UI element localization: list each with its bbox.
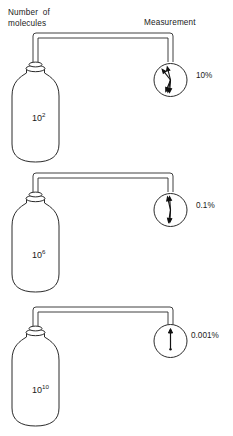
row-3-tube — [33, 307, 173, 326]
row-2-group — [12, 173, 187, 292]
molecule-count-exponent: 6 — [42, 248, 45, 255]
measurement-value-row-3: 0.001% — [191, 331, 219, 340]
measurement-value-row-1: 10% — [196, 71, 212, 80]
molecule-count-mantissa: 10 — [32, 250, 42, 260]
row-3-gauge — [154, 325, 187, 358]
molecule-count-row-1: 102 — [32, 113, 45, 123]
molecule-count-row-2: 106 — [32, 250, 45, 260]
diagram-graphics — [0, 0, 233, 436]
measurement-value-row-2: 0.1% — [196, 201, 215, 210]
row-2-gauge — [154, 194, 187, 227]
row-1-group — [12, 33, 187, 162]
diagram-canvas: Number of molecules Measurement 102 106 … — [0, 0, 233, 436]
row-3-bottle — [12, 326, 59, 426]
molecule-count-exponent: 10 — [42, 383, 49, 390]
row-2-bottle — [12, 192, 59, 292]
molecule-count-mantissa: 10 — [32, 113, 42, 123]
molecule-count-exponent: 2 — [42, 111, 45, 118]
row-2-tube — [33, 173, 173, 192]
molecule-count-row-3: 1010 — [32, 385, 49, 395]
label-number-of-molecules: Number of molecules — [8, 7, 50, 29]
label-measurement: Measurement — [144, 17, 196, 28]
row-3-group — [12, 307, 187, 426]
row-1-gauge — [154, 64, 187, 97]
molecule-count-mantissa: 10 — [32, 385, 42, 395]
row-1-tube — [33, 33, 173, 62]
